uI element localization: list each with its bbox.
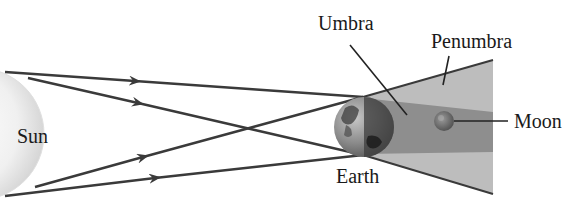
lunar-eclipse-diagram: Umbra Penumbra Sun Earth Moon [0,0,580,205]
moon-label: Moon [514,110,562,132]
sun-label: Sun [17,125,48,147]
penumbra-label: Penumbra [431,30,512,52]
umbra-label: Umbra [318,12,374,34]
earth-label: Earth [336,165,379,187]
sun-rays [5,72,363,196]
ray-4 [5,155,363,196]
earth [334,97,394,157]
moon [434,111,454,131]
